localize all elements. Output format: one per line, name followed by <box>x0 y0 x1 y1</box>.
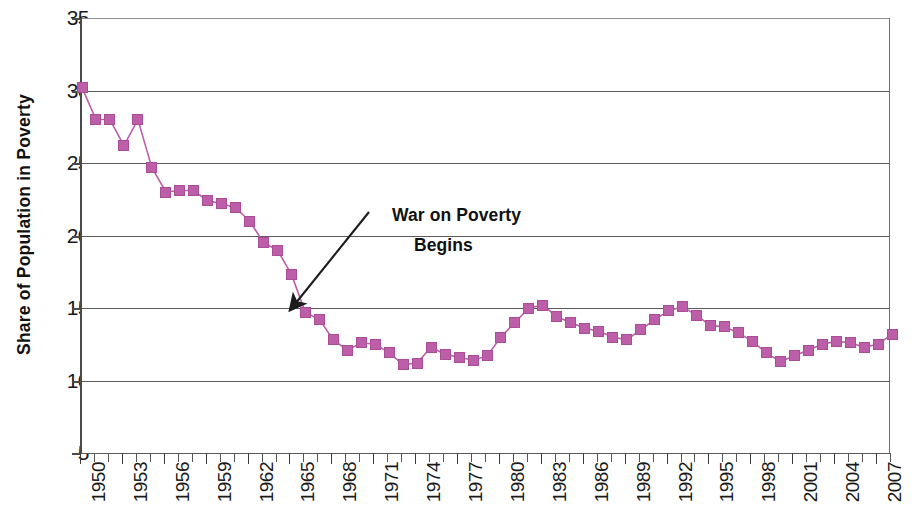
data-point-marker <box>789 350 800 361</box>
data-point-marker <box>691 310 702 321</box>
x-axis-tick-mark <box>625 453 626 464</box>
x-axis-tick-mark <box>792 453 793 464</box>
x-axis-tick-label: 1965 <box>297 462 319 502</box>
x-axis-tick-label: 1959 <box>214 462 236 502</box>
x-axis-tick-mark <box>415 453 416 464</box>
data-point-marker <box>803 345 814 356</box>
x-axis-tick-mark <box>681 453 682 462</box>
x-axis-tick-mark <box>289 453 290 464</box>
data-point-marker <box>579 323 590 334</box>
x-axis-tick-mark <box>820 453 821 462</box>
y-axis-title: Share of Population in Poverty <box>14 5 35 445</box>
x-axis-tick-label: 1986 <box>591 462 613 502</box>
x-axis-tick-mark <box>373 453 374 464</box>
x-axis-tick-mark <box>806 453 807 462</box>
x-axis-tick-mark <box>429 453 430 462</box>
x-axis-tick-mark <box>708 453 709 464</box>
data-point-marker <box>719 321 730 332</box>
x-axis-tick-mark <box>764 453 765 462</box>
annotation-label-line1: War on Poverty <box>392 205 521 226</box>
x-axis-tick-label: 2001 <box>800 462 822 502</box>
x-axis-tick-label: 1962 <box>256 462 278 502</box>
x-axis-tick-mark <box>178 453 179 462</box>
data-point-marker <box>677 301 688 312</box>
x-axis-tick-mark <box>331 453 332 464</box>
x-axis-tick-mark <box>527 453 528 462</box>
data-point-marker <box>132 114 143 125</box>
x-axis-tick-label: 1977 <box>465 462 487 502</box>
data-point-marker <box>468 355 479 366</box>
x-axis-tick-mark <box>736 453 737 462</box>
x-axis-tick-mark <box>569 453 570 462</box>
data-point-marker <box>537 300 548 311</box>
data-point-marker <box>635 324 646 335</box>
x-axis-tick-label: 1992 <box>675 462 697 502</box>
x-axis-tick-mark <box>401 453 402 462</box>
series-line <box>82 18 892 453</box>
data-point-marker <box>775 356 786 367</box>
x-axis-tick-mark <box>206 453 207 464</box>
x-axis-tick-mark <box>80 453 81 464</box>
x-axis-tick-label: 1980 <box>507 462 529 502</box>
data-point-marker <box>663 305 674 316</box>
x-axis-tick-mark <box>639 453 640 462</box>
x-axis-tick-mark <box>471 453 472 462</box>
data-point-marker <box>370 339 381 350</box>
x-axis-tick-label: 2007 <box>884 462 906 502</box>
data-point-marker <box>244 216 255 227</box>
data-point-marker <box>104 114 115 125</box>
x-axis-tick-label: 1956 <box>172 462 194 502</box>
data-point-marker <box>412 358 423 369</box>
data-point-marker <box>90 114 101 125</box>
data-point-marker <box>188 185 199 196</box>
data-point-marker <box>887 329 898 340</box>
data-point-marker <box>733 327 744 338</box>
x-axis-tick-mark <box>248 453 249 464</box>
x-axis-tick-label: 1953 <box>130 462 152 502</box>
data-point-marker <box>495 332 506 343</box>
x-axis-tick-label: 1968 <box>339 462 361 502</box>
data-point-marker <box>565 317 576 328</box>
data-point-marker <box>440 349 451 360</box>
data-point-marker <box>160 187 171 198</box>
data-point-marker <box>649 314 660 325</box>
x-axis-tick-mark <box>513 453 514 462</box>
data-point-marker <box>817 339 828 350</box>
data-point-marker <box>454 352 465 363</box>
x-axis-tick-label: 1983 <box>549 462 571 502</box>
x-axis-tick-mark <box>150 453 151 462</box>
x-axis-tick-mark <box>108 453 109 462</box>
x-axis-tick-label: 1995 <box>716 462 738 502</box>
annotation-arrow-icon <box>261 199 391 329</box>
data-point-marker <box>202 195 213 206</box>
x-axis-tick-mark <box>597 453 598 462</box>
data-point-marker <box>621 334 632 345</box>
data-point-marker <box>216 198 227 209</box>
data-point-marker <box>593 326 604 337</box>
x-axis-tick-mark <box>499 453 500 464</box>
data-point-marker <box>523 303 534 314</box>
data-point-marker <box>356 337 367 348</box>
data-point-marker <box>146 162 157 173</box>
x-axis-tick-mark <box>667 453 668 464</box>
x-axis-tick-mark <box>262 453 263 462</box>
data-point-marker <box>747 336 758 347</box>
data-point-marker <box>118 140 129 151</box>
poverty-rate-chart: Share of Population in Poverty 353025201… <box>0 0 915 525</box>
data-point-marker <box>551 311 562 322</box>
x-axis-tick-mark <box>457 453 458 464</box>
data-point-marker <box>859 342 870 353</box>
x-axis-tick-mark <box>234 453 235 462</box>
data-point-marker <box>845 337 856 348</box>
x-axis-tick-mark <box>345 453 346 462</box>
x-axis-tick-mark <box>94 453 95 462</box>
data-point-marker <box>342 345 353 356</box>
plot-area <box>80 18 890 453</box>
data-point-marker <box>482 350 493 361</box>
x-axis-tick-mark <box>485 453 486 462</box>
data-point-marker <box>328 334 339 345</box>
x-axis-tick-mark <box>722 453 723 462</box>
data-point-marker <box>831 336 842 347</box>
data-point-marker <box>174 185 185 196</box>
data-point-marker <box>761 347 772 358</box>
